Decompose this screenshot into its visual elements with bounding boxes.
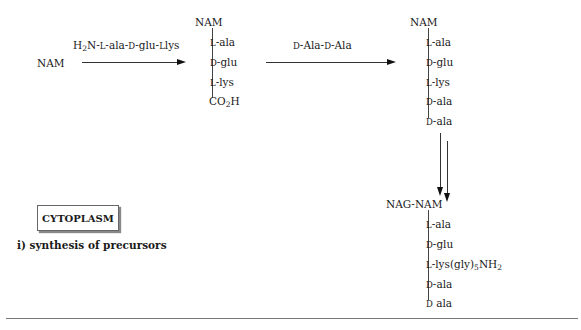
arrowhead-down-icon [444,193,450,202]
chain1-residue-2: D-glu [210,56,237,69]
arrowhead-right-icon [387,59,396,65]
down-arrow-2 [447,141,448,194]
chain2-head: NAM [410,16,438,28]
chain1-head: NAM [195,16,223,28]
chain2-residue-5: D-ala [426,115,452,128]
cytoplasm-label-box: CYTOPLASM [37,205,119,231]
reaction-arrow-2 [266,62,388,63]
chain3-head: NAG-NAM [386,198,442,210]
chain3-residue-4: D-ala [426,278,452,291]
chain3-residue-1: L-ala [426,218,451,231]
chain2-residue-4: D-ala [426,95,452,108]
chain1-residue-1: L-ala [210,36,235,49]
chain2-residue-1: L-ala [426,36,451,49]
chain3-residue-2: D-glu [426,238,453,251]
chain3-residue-5: D ala [426,297,452,310]
start-nam: NAM [37,57,65,69]
down-arrow-1 [440,133,441,188]
arrowhead-down-icon [437,187,443,196]
reagent-tripeptide: H2N-L-ala-D-glu-Llys [73,39,179,55]
chain2-residue-3: L-lys [426,76,450,89]
reaction-arrow-1 [82,62,178,63]
chain2-residue-2: D-glu [426,56,453,69]
chain1-terminal: CO2H [209,95,240,111]
chain1-residue-3: L-lys [210,76,234,89]
caption: i) synthesis of precursors [17,239,167,251]
bottom-divider [6,318,578,319]
chain3-residue-3: L-lys(gly)5NH2 [426,258,502,274]
arrowhead-right-icon [177,59,186,65]
reagent-dipeptide: D-Ala-D-Ala [293,39,352,52]
cytoplasm-label: CYTOPLASM [42,213,114,224]
